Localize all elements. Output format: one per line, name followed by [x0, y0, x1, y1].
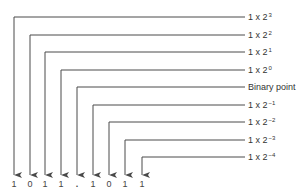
- label-2-pow-2: 1 x 22: [248, 30, 272, 40]
- label-binary-point: Binary point: [248, 82, 296, 92]
- label-2-pow-neg1: 1 x 2−1: [248, 100, 275, 110]
- label-2-pow-neg2: 1 x 2−2: [248, 117, 275, 127]
- label-2-pow-neg4: 1 x 2−4: [248, 152, 275, 162]
- digit-2: 1: [40, 179, 50, 189]
- digit-6: 0: [104, 179, 114, 189]
- label-2-pow-0: 1 x 20: [248, 65, 272, 75]
- binary-point-dot: .: [72, 179, 82, 189]
- digit-5: 1: [88, 179, 98, 189]
- digit-7: 1: [120, 179, 130, 189]
- digit-0: 1: [9, 179, 19, 189]
- line-2-pow-neg2: [109, 122, 245, 175]
- label-2-pow-neg3: 1 x 2−3: [248, 135, 275, 145]
- label-2-pow-1: 1 x 21: [248, 47, 272, 57]
- line-2-pow-neg4: [142, 157, 245, 175]
- line-2-pow-3: [14, 17, 245, 175]
- label-2-pow-3: 1 x 23: [248, 12, 272, 22]
- digit-3: 1: [56, 179, 66, 189]
- digit-8: 1: [137, 179, 147, 189]
- line-binary-point: [77, 87, 245, 175]
- connector-lines: [0, 0, 308, 191]
- digit-1: 0: [25, 179, 35, 189]
